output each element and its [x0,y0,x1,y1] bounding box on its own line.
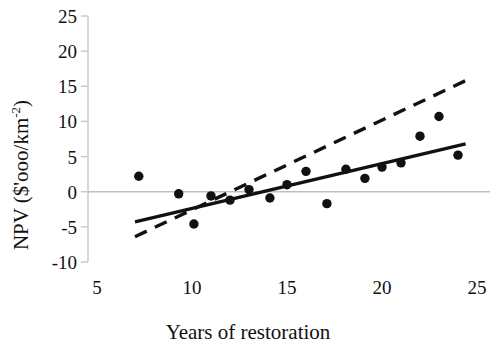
data-point-marker [415,131,424,140]
data-point-marker [322,199,331,208]
y-tick-label: 25 [58,7,77,26]
data-point-marker [377,162,386,171]
y-tick-label: 20 [58,42,77,61]
data-point-marker [434,112,443,121]
data-point-marker [174,189,183,198]
y-axis-title-exponent: -2 [8,106,23,117]
data-point-marker [301,167,310,176]
y-tick-marks [81,16,88,262]
axes [81,16,490,262]
y-tick-label: 0 [68,182,78,201]
x-axis-title: Years of restoration [0,320,496,345]
x-tick-label: 25 [468,278,487,297]
data-point-marker [206,191,215,200]
data-point-marker [244,185,253,194]
data-point-marker [360,174,369,183]
y-tick-label: 5 [68,147,78,166]
x-tick-label: 20 [373,278,392,297]
data-point-marker [225,195,234,204]
y-axis-title-tail: ) [9,99,33,106]
y-axis-title: NPV ($'ooo/km-2) [8,50,34,300]
data-point-marker [396,158,405,167]
data-point-marker [189,219,198,228]
dashed-trend-line [135,81,466,237]
data-point-marker [453,150,462,159]
npv-scatter-chart: 2520151050-5-10 510152025 NPV ($'ooo/km-… [0,0,496,349]
data-point-marker [282,180,291,189]
y-tick-label: -5 [61,217,77,236]
data-point-marker [341,165,350,174]
trend-lines [135,81,466,237]
x-tick-label: 5 [92,278,102,297]
data-point-marker [265,193,274,202]
y-tick-label: 15 [58,77,77,96]
y-tick-label: -10 [52,253,77,272]
y-tick-label: 10 [58,112,77,131]
data-point-marker [134,172,143,181]
y-axis-title-base: NPV ($'ooo/km [9,117,33,249]
x-tick-label: 15 [278,278,297,297]
solid-trend-line [135,144,466,222]
x-tick-label: 10 [183,278,202,297]
